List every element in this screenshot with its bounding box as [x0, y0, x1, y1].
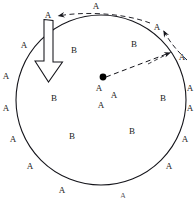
physics-circle-diagram: A A A A A A A A A A A A A A A A A A B B … [0, 0, 194, 198]
main-circle [16, 15, 186, 185]
dashed-radius-arrow [106, 53, 171, 78]
dashed-stub-lower-right [148, 54, 169, 65]
center-dot [100, 74, 107, 81]
diagram-canvas [0, 0, 194, 198]
downward-block-arrow [35, 20, 63, 83]
dashed-arc-right [164, 31, 188, 61]
